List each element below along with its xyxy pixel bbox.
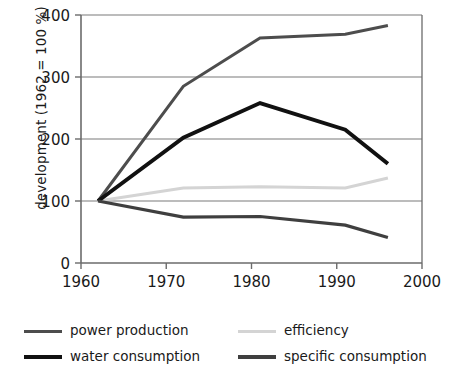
legend-swatch-water-consumption bbox=[24, 355, 62, 360]
line-chart-plot: 0100200300400 19601970198019902000 bbox=[0, 0, 452, 315]
legend-swatch-efficiency bbox=[238, 330, 276, 333]
svg-text:0: 0 bbox=[60, 255, 70, 273]
legend-label-efficiency: efficiency bbox=[284, 324, 349, 338]
y-tick-labels: 0100200300400 bbox=[41, 7, 70, 273]
legend-item-power-production: power production bbox=[24, 324, 238, 338]
svg-text:2000: 2000 bbox=[403, 273, 441, 291]
svg-text:1970: 1970 bbox=[147, 273, 185, 291]
chart-legend: power production efficiency water consum… bbox=[24, 318, 444, 370]
legend-swatch-power-production bbox=[24, 330, 62, 333]
svg-text:400: 400 bbox=[41, 7, 70, 25]
data-series-group bbox=[98, 26, 388, 238]
y-axis-ticks bbox=[75, 15, 81, 263]
x-axis-ticks bbox=[81, 263, 422, 269]
x-tick-labels: 19601970198019902000 bbox=[62, 273, 441, 291]
legend-item-specific-consumption: specific consumption bbox=[238, 350, 444, 364]
legend-label-water-consumption: water consumption bbox=[70, 350, 200, 364]
legend-label-specific-consumption: specific consumption bbox=[284, 350, 427, 364]
svg-text:100: 100 bbox=[41, 193, 70, 211]
svg-text:1980: 1980 bbox=[232, 273, 270, 291]
legend-item-efficiency: efficiency bbox=[238, 324, 444, 338]
svg-text:1990: 1990 bbox=[318, 273, 356, 291]
legend-swatch-specific-consumption bbox=[238, 355, 276, 359]
svg-text:200: 200 bbox=[41, 131, 70, 149]
chart-figure: 0100200300400 19601970198019902000 devel… bbox=[0, 0, 452, 380]
legend-label-power-production: power production bbox=[70, 324, 189, 338]
svg-text:1960: 1960 bbox=[62, 273, 100, 291]
legend-item-water-consumption: water consumption bbox=[24, 350, 238, 364]
svg-text:300: 300 bbox=[41, 69, 70, 87]
